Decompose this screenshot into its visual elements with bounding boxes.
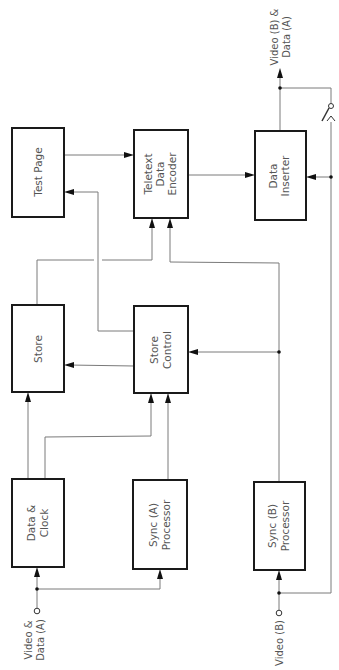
block-label-line-2: Data <box>154 161 166 186</box>
block-label-line-2: Clock <box>38 508 50 537</box>
arrow-into-store-control-1 <box>148 393 154 403</box>
input-label-video-data-a: Video & Data (A) <box>23 619 46 661</box>
arrow-encoder-to-inserter <box>245 172 255 178</box>
wire-data-clock-to-store-control <box>45 398 151 479</box>
block-label-line-2: Control <box>161 331 173 369</box>
input-terminal-video-data-a[interactable] <box>34 608 40 614</box>
io-label: Video (B) <box>274 620 285 666</box>
block-teletext-data-encoder[interactable]: Teletext Data Encoder <box>134 130 188 218</box>
block-test-page[interactable]: Test Page <box>12 128 64 217</box>
arrow-into-test-page <box>64 189 74 195</box>
block-label-line-2: Inserter <box>279 155 291 197</box>
io-label-line-2: Data (A) <box>35 619 46 661</box>
block-label-line-1: Data & <box>25 505 37 542</box>
switch-contact-top <box>329 104 334 109</box>
junction-input-b <box>277 591 281 595</box>
wire-store-to-encoder <box>37 223 152 305</box>
block-sync-b-processor[interactable]: Sync (B) Processor <box>254 482 305 570</box>
block-label-line-1: Store <box>148 336 160 364</box>
arrow-control-to-store <box>64 362 74 368</box>
switch-contact-bottom <box>327 116 335 121</box>
block-sync-a-processor[interactable]: Sync (A) Processor <box>133 480 187 569</box>
arrow-into-encoder-1 <box>149 218 155 228</box>
junction-video-b-inserter <box>329 175 333 179</box>
block-label: Test Page <box>32 147 44 197</box>
arrow-into-sync-a <box>157 569 163 579</box>
block-store-control[interactable]: Store Control <box>134 306 188 393</box>
block-label-line-2: Processor <box>279 500 291 551</box>
block-data-clock[interactable]: Data & Clock <box>12 479 64 567</box>
block-data-inserter[interactable]: Data Inserter <box>255 131 306 220</box>
block-label-line-1: Sync (A) <box>147 503 159 547</box>
teletext-block-diagram: Test Page Teletext Data Encoder Data Ins… <box>0 0 339 670</box>
wire-input-a-to-sync-a <box>37 574 160 589</box>
arrow-into-sync-b <box>276 570 282 580</box>
junction-input-a <box>35 587 39 591</box>
wire-sync-b-to-store-control <box>193 352 279 482</box>
arrow-video-b-to-inserter <box>306 174 316 180</box>
junction-output <box>278 86 282 90</box>
io-label-line-1: Video & <box>23 620 34 659</box>
block-label: Store <box>32 335 44 363</box>
io-label-line-2: Data (A) <box>281 16 292 58</box>
block-label-line-1: Sync (B) <box>266 504 278 548</box>
wire-output-to-switch <box>280 88 331 104</box>
block-label-line-1: Data <box>267 163 279 188</box>
io-label-line-1: Video (B) & <box>269 8 280 65</box>
bypass-switch[interactable] <box>322 104 335 122</box>
block-label-line-2: Processor <box>160 499 172 550</box>
output-label-video-b-data-a: Video (B) & Data (A) <box>269 8 292 65</box>
arrow-to-output <box>277 68 283 78</box>
arrow-sync-b-to-store-control <box>188 349 198 355</box>
block-label-line-3: Encoder <box>166 152 178 196</box>
wire-store-control-to-test-page <box>69 192 134 331</box>
input-terminal-video-b[interactable] <box>276 610 282 616</box>
arrow-into-encoder-2 <box>167 218 173 228</box>
junction-sync-b-split <box>277 350 281 354</box>
block-store[interactable]: Store <box>12 305 64 392</box>
arrow-into-store <box>25 392 31 402</box>
input-label-video-b: Video (B) <box>274 620 285 666</box>
arrow-test-page-to-encoder <box>124 152 134 158</box>
arrow-into-data-clock <box>34 567 40 577</box>
wire-store-control-to-store <box>69 365 134 366</box>
arrow-into-store-control-2 <box>165 393 171 403</box>
block-label-line-1: Teletext <box>142 153 154 195</box>
